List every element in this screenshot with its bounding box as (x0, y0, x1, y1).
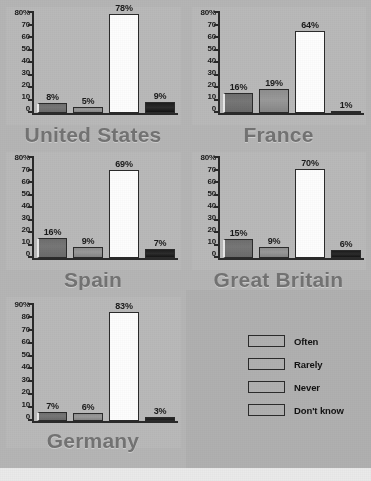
bar-slot: 19% (259, 11, 289, 113)
bar-often[interactable]: 16% (223, 93, 253, 113)
legend-label: Often (294, 336, 318, 347)
axis-tick (214, 231, 219, 233)
axis-tick (28, 316, 33, 318)
axis-tick (28, 355, 33, 357)
y-axis-labels: 80% 70 60 50 40 30 20 10 0 (190, 9, 216, 113)
axis-tick (28, 74, 33, 76)
bar-value-label: 16% (44, 227, 61, 237)
axis-tick (28, 244, 33, 246)
axis-tick (28, 11, 33, 13)
bar-value-label: 9% (82, 236, 95, 246)
bar-slot: 15% (223, 156, 253, 258)
axis-tick (214, 219, 219, 221)
legend-item-rarely: Rarely (248, 358, 344, 370)
y-axis-labels: 90% 80 70 60 50 40 30 20 10 0 (4, 301, 30, 421)
bar-value-label: 9% (268, 236, 281, 246)
bar-often[interactable]: 15% (223, 239, 253, 258)
bar-rarely[interactable]: 6% (73, 413, 103, 421)
bar-value-label: 9% (154, 91, 167, 101)
bar-often[interactable]: 7% (37, 412, 67, 421)
bar-slot: 69% (109, 156, 139, 258)
bar-group: 16%9%69%7% (34, 156, 178, 258)
axis-tick (214, 49, 219, 51)
axis-tick (214, 61, 219, 63)
bar-value-label: 16% (230, 82, 247, 92)
axis-tick (28, 367, 33, 369)
bar-slot: 16% (37, 156, 67, 258)
bar-slot: 7% (37, 303, 67, 421)
axis-tick (28, 303, 33, 305)
axis-tick (28, 49, 33, 51)
bar-group: 15%9%70%6% (220, 156, 364, 258)
page-bottom-margin (0, 468, 371, 481)
x-axis-line (32, 258, 178, 260)
x-axis-line (32, 421, 178, 423)
y-axis-ticks (28, 11, 33, 113)
bar-value-label: 83% (115, 301, 132, 311)
bar-value-label: 6% (340, 239, 353, 249)
bar-dont-know[interactable]: 9% (145, 102, 175, 113)
panel-united-states: 80% 70 60 50 40 30 20 10 0 8%5%78%9% Uni… (0, 0, 186, 145)
axis-tick (28, 194, 33, 196)
bar-value-label: 15% (230, 228, 247, 238)
bar-value-label: 64% (301, 20, 318, 30)
axis-tick (28, 99, 33, 101)
bar-slot: 64% (295, 11, 325, 113)
axis-tick (28, 61, 33, 63)
x-axis-line (218, 258, 364, 260)
axis-tick (214, 99, 219, 101)
axis-tick (214, 36, 219, 38)
axis-tick (28, 329, 33, 331)
legend: Often Rarely Never Don't know (248, 335, 344, 416)
bar-slot: 6% (331, 156, 361, 258)
bar-never[interactable]: 70% (295, 169, 325, 258)
axis-tick (28, 342, 33, 344)
axis-tick (28, 86, 33, 88)
bar-rarely[interactable]: 9% (73, 247, 103, 258)
bar-never[interactable]: 78% (109, 14, 139, 113)
bar-value-label: 1% (340, 100, 353, 110)
axis-tick (28, 406, 33, 408)
bar-slot: 9% (145, 11, 175, 113)
bar-never[interactable]: 83% (109, 312, 139, 421)
bar-value-label: 8% (46, 92, 59, 102)
y-axis-labels: 80% 70 60 50 40 30 20 10 0 (4, 9, 30, 113)
legend-swatch-icon (248, 335, 285, 347)
bar-dont-know[interactable]: 7% (145, 249, 175, 258)
bar-often[interactable]: 8% (37, 103, 67, 113)
legend-label: Never (294, 382, 320, 393)
bar-slot: 70% (295, 156, 325, 258)
panel-spain: 80% 70 60 50 40 30 20 10 0 16%9%69%7% Sp… (0, 145, 186, 290)
legend-panel: Often Rarely Never Don't know (186, 290, 371, 468)
bar-dont-know[interactable]: 3% (145, 417, 175, 421)
bar-group: 16%19%64%1% (220, 11, 364, 113)
y-axis-ticks (214, 11, 219, 113)
bar-never[interactable]: 69% (109, 170, 139, 258)
panel-grid: 80% 70 60 50 40 30 20 10 0 8%5%78%9% Uni… (0, 0, 371, 468)
bar-never[interactable]: 64% (295, 31, 325, 113)
axis-tick (28, 206, 33, 208)
panel-title: Spain (0, 268, 186, 290)
bar-rarely[interactable]: 5% (73, 107, 103, 113)
bar-dont-know[interactable]: 6% (331, 250, 361, 258)
bar-dont-know[interactable]: 1% (331, 111, 361, 113)
panel-title: Germany (0, 429, 186, 452)
bar-often[interactable]: 16% (37, 238, 67, 258)
y-axis-ticks (28, 303, 33, 421)
legend-swatch-icon (248, 381, 285, 393)
axis-tick (28, 181, 33, 183)
legend-swatch-icon (248, 404, 285, 416)
bar-slot: 7% (145, 156, 175, 258)
legend-item-dont-know: Don't know (248, 404, 344, 416)
panel-title: Great Britain (186, 268, 371, 290)
bar-rarely[interactable]: 19% (259, 89, 289, 113)
bar-value-label: 7% (154, 238, 167, 248)
bar-rarely[interactable]: 9% (259, 247, 289, 258)
bar-value-label: 5% (82, 96, 95, 106)
legend-item-never: Never (248, 381, 344, 393)
bar-value-label: 6% (82, 402, 95, 412)
x-axis-line (32, 113, 178, 115)
legend-label: Rarely (294, 359, 322, 370)
bar-value-label: 70% (301, 158, 318, 168)
panel-germany: 90% 80 70 60 50 40 30 20 10 0 7%6%83%3% … (0, 290, 186, 468)
